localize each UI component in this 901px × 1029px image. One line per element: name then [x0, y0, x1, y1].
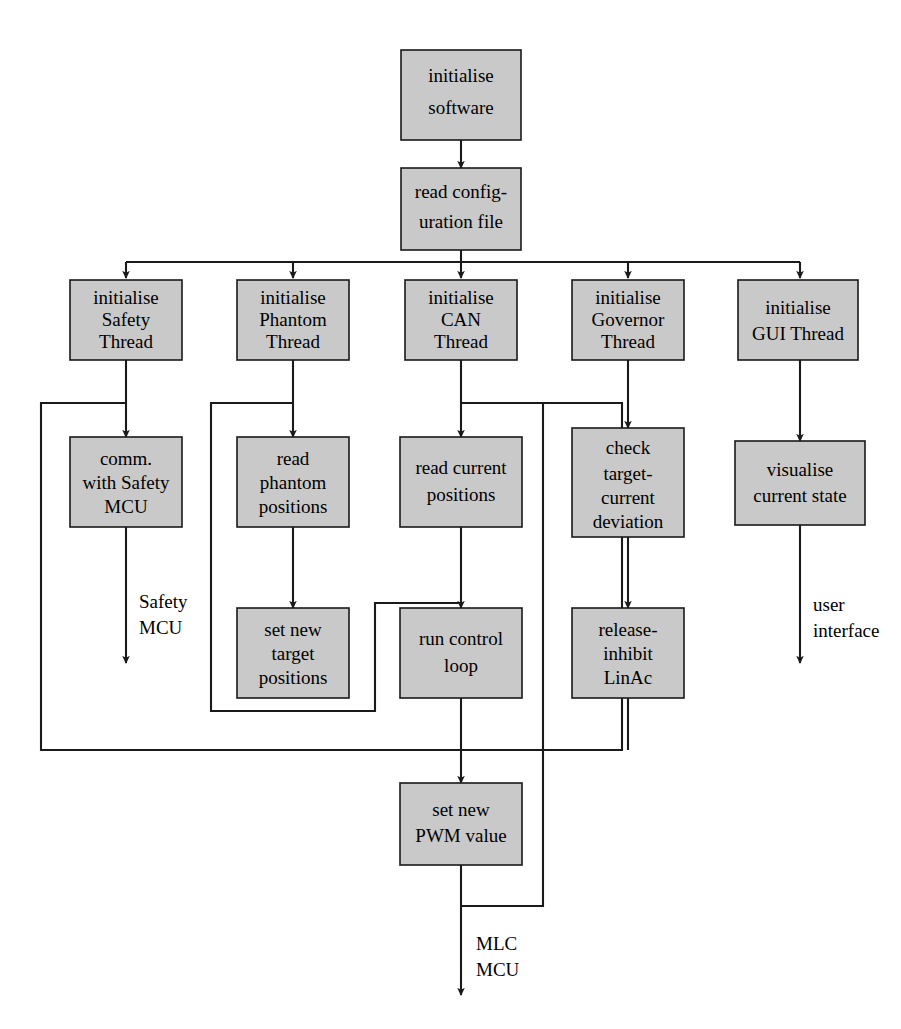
node-label-init-safety-line-0: initialise	[93, 287, 158, 308]
node-label-run-loop-line-0: run control	[419, 628, 503, 649]
flowchart-diagram: initialise software read config- uration…	[0, 0, 901, 1029]
node-label-set-pwm-line-1: PWM value	[415, 825, 506, 846]
node-label-release-inhibit-line-1: inhibit	[603, 643, 653, 664]
node-label-init-can-line-0: initialise	[428, 287, 493, 308]
node-label-read-current-line-1: positions	[427, 484, 496, 505]
node-label-comm-safety-line-2: MCU	[104, 496, 148, 517]
node-label-set-target-line-2: positions	[259, 667, 328, 688]
node-visualise-current-state: visualise current state	[735, 441, 865, 525]
node-label-visualise-line-1: current state	[753, 485, 846, 506]
node-label-release-inhibit-line-0: release-	[598, 619, 657, 640]
node-initialise-software: initialise software	[401, 50, 521, 140]
node-set-new-pwm-value: set new PWM value	[400, 783, 522, 865]
node-label-release-inhibit-line-2: LinAc	[604, 667, 653, 688]
edge-label-user-interface: user interface	[813, 594, 879, 641]
node-box-read-current-positions	[400, 437, 522, 527]
node-label-init-governor-line-1: Governor	[592, 309, 665, 330]
node-read-configuration-file: read config- uration file	[401, 168, 521, 250]
node-label-init-governor-line-2: Thread	[601, 331, 655, 352]
node-label-comm-safety-line-1: with Safety	[82, 472, 170, 493]
node-box-initialise-gui-thread	[738, 280, 858, 360]
node-label-init-can-line-1: CAN	[441, 309, 481, 330]
node-release-inhibit-linac: release- inhibit LinAc	[572, 608, 684, 698]
node-label-initialise-software-line-1: software	[428, 97, 493, 118]
node-box-run-control-loop	[400, 608, 522, 698]
node-run-control-loop: run control loop	[400, 608, 522, 698]
edge-label-mlc-mcu: MLC MCU	[476, 933, 520, 980]
edge-label-safety-mcu-line-1: MCU	[139, 617, 183, 638]
node-label-read-phantom-line-2: positions	[259, 496, 328, 517]
node-read-phantom-positions: read phantom positions	[237, 437, 349, 527]
node-label-init-phantom-line-1: Phantom	[259, 309, 327, 330]
node-label-read-current-line-0: read current	[415, 457, 507, 478]
node-label-init-governor-line-0: initialise	[595, 287, 660, 308]
node-box-read-configuration-file	[401, 168, 521, 250]
node-label-init-phantom-line-0: initialise	[260, 287, 325, 308]
node-initialise-phantom-thread: initialise Phantom Thread	[237, 280, 349, 360]
edge-label-safety-mcu: Safety MCU	[139, 591, 188, 638]
node-initialise-governor-thread: initialise Governor Thread	[572, 280, 684, 360]
node-label-init-safety-line-2: Thread	[99, 331, 153, 352]
node-label-read-config-line-0: read config-	[415, 181, 507, 202]
node-initialise-can-thread: initialise CAN Thread	[405, 280, 517, 360]
node-label-init-gui-line-1: GUI Thread	[752, 323, 844, 344]
node-label-visualise-line-0: visualise	[767, 459, 834, 480]
edge-label-user-interface-line-1: interface	[813, 620, 879, 641]
node-box-initialise-software	[401, 50, 521, 140]
node-label-read-phantom-line-1: phantom	[260, 472, 327, 493]
node-initialise-gui-thread: initialise GUI Thread	[738, 280, 858, 360]
node-label-check-dev-line-1: target-	[603, 463, 652, 484]
edge-label-mlc-mcu-line-0: MLC	[476, 933, 517, 954]
node-comm-with-safety-mcu: comm. with Safety MCU	[70, 437, 182, 527]
node-label-init-phantom-line-2: Thread	[266, 331, 320, 352]
node-read-current-positions: read current positions	[400, 437, 522, 527]
node-set-new-target-positions: set new target positions	[237, 608, 349, 698]
node-label-read-phantom-line-0: read	[277, 448, 310, 469]
flowchart-canvas: initialise software read config- uration…	[0, 0, 901, 1029]
node-label-set-target-line-1: target	[272, 643, 316, 664]
node-label-set-target-line-0: set new	[264, 619, 322, 640]
node-label-comm-safety-line-0: comm.	[100, 448, 152, 469]
edge-label-mlc-mcu-line-1: MCU	[476, 959, 520, 980]
node-label-run-loop-line-1: loop	[444, 655, 478, 676]
node-label-check-dev-line-2: current	[601, 487, 656, 508]
node-label-read-config-line-1: uration file	[419, 211, 503, 232]
node-label-init-can-line-2: Thread	[434, 331, 488, 352]
node-label-set-pwm-line-0: set new	[432, 799, 490, 820]
node-initialise-safety-thread: initialise Safety Thread	[70, 280, 182, 360]
edge-label-safety-mcu-line-0: Safety	[139, 591, 188, 612]
node-check-target-current-deviation: check target- current deviation	[572, 428, 684, 537]
edge-label-user-interface-line-0: user	[813, 594, 845, 615]
node-box-visualise-current-state	[735, 441, 865, 525]
node-label-initialise-software-line-0: initialise	[428, 65, 493, 86]
node-label-init-gui-line-0: initialise	[765, 297, 830, 318]
node-label-check-dev-line-0: check	[606, 437, 651, 458]
node-label-init-safety-line-1: Safety	[102, 309, 151, 330]
node-label-check-dev-line-3: deviation	[593, 511, 664, 532]
node-box-set-new-pwm-value	[400, 783, 522, 865]
